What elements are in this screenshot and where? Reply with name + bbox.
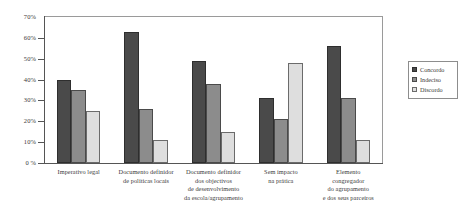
bar-discordo [153,140,168,163]
x-label-line: de desenvolvimento [172,185,256,194]
bar-concordo [192,61,207,163]
bar-indeciso [341,98,356,163]
chart-legend: ConcordoIndecisoDiscordo [408,61,458,99]
bar-concordo [259,98,274,163]
x-label-line: e dos seus parceiros [307,194,391,203]
y-axis-label: 60% [2,34,36,41]
legend-item[interactable]: Discordo [412,85,454,94]
bar-concordo [327,46,342,163]
legend-label: Indeciso [420,76,441,83]
bar-discordo [288,63,303,163]
bar-discordo [221,132,236,163]
bar-concordo [124,32,139,163]
legend-label: Concordo [420,66,444,73]
x-label-line: da escola/agrupamento [172,194,256,203]
x-label-line: do agrupamento [307,185,391,194]
bar-discordo [86,111,101,163]
y-axis-label: 40% [2,76,36,83]
bar-chart: 0 %10%20%30%40%50%60%70% Imperativo lega… [0,0,466,214]
bar-group [327,17,371,163]
x-label-line: congregador [307,177,391,186]
bar-group [124,17,168,163]
y-axis-label: 30% [2,96,36,103]
legend-swatch-icon [412,87,417,92]
x-axis-line [44,163,383,164]
bar-indeciso [206,84,221,163]
y-axis-label: 10% [2,138,36,145]
bar-group [192,17,236,163]
bar-group [57,17,101,163]
legend-swatch-icon [412,77,417,82]
legend-item[interactable]: Concordo [412,65,454,74]
bar-concordo [57,80,72,163]
legend-item[interactable]: Indeciso [412,75,454,84]
x-label-line: Elemento [307,168,391,177]
bar-group [259,17,303,163]
x-axis-category-label: Elementocongregadordo agrupamentoe dos s… [307,168,391,202]
bar-groups [45,17,382,163]
y-axis-label: 50% [2,55,36,62]
legend-swatch-icon [412,67,417,72]
bar-indeciso [274,119,289,163]
y-axis-label: 70% [2,13,36,20]
y-axis-label: 20% [2,117,36,124]
y-axis-label: 0 % [2,159,36,166]
legend-label: Discordo [420,86,443,93]
bar-indeciso [139,109,154,163]
bar-indeciso [71,90,86,163]
x-axis-category-labels: Imperativo legalDocumento definidorde po… [45,168,382,214]
bar-discordo [356,140,371,163]
